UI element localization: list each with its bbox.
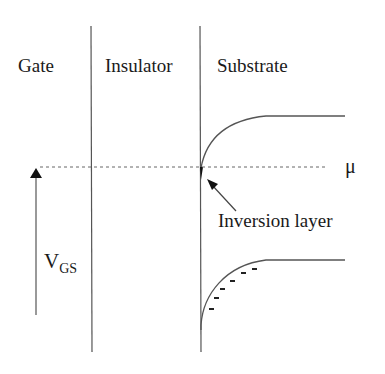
region-label-substrate: Substrate — [217, 56, 288, 75]
band-diagram — [0, 0, 385, 374]
region-label-insulator: Insulator — [105, 56, 173, 75]
vgs-label: VGS — [44, 251, 77, 276]
conduction-band-curve — [201, 116, 345, 168]
inversion-pointer-arrowhead — [207, 179, 218, 190]
charge-markers — [209, 268, 257, 310]
region-label-gate: Gate — [18, 56, 54, 75]
vgs-main: V — [44, 249, 59, 273]
fermi-level-label: μ — [345, 156, 356, 176]
gate-insulator-boundary — [91, 26, 92, 352]
vgs-arrowhead — [30, 168, 42, 178]
inversion-layer-label: Inversion layer — [218, 211, 332, 230]
vgs-subscript: GS — [59, 261, 77, 276]
valence-band-curve — [201, 260, 345, 330]
insulator-substrate-boundary — [200, 26, 201, 352]
inversion-pointer-line — [212, 185, 236, 211]
